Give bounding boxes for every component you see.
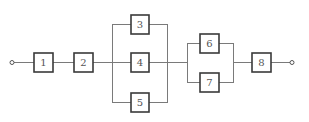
block-4: 4 (131, 53, 149, 72)
output-terminal-icon (290, 61, 294, 65)
block-5-label: 5 (137, 97, 143, 108)
block-6: 6 (200, 34, 219, 53)
block-3-label: 3 (137, 19, 143, 30)
block-3: 3 (131, 15, 149, 34)
block-8: 8 (252, 53, 271, 72)
block-2: 2 (74, 53, 93, 72)
block-diagram: 1 2 3 4 5 6 7 8 (0, 0, 309, 122)
block-2-label: 2 (80, 57, 86, 68)
block-8-label: 8 (258, 57, 264, 68)
input-terminal-icon (10, 61, 14, 65)
diagram-canvas: 1 2 3 4 5 6 7 8 (0, 0, 309, 122)
block-6-label: 6 (206, 38, 212, 49)
block-7: 7 (200, 73, 219, 92)
block-1: 1 (34, 53, 53, 72)
block-1-label: 1 (40, 57, 46, 68)
block-7-label: 7 (206, 77, 212, 88)
wires (14, 24, 290, 103)
block-5: 5 (131, 93, 149, 112)
block-4-label: 4 (137, 57, 143, 68)
